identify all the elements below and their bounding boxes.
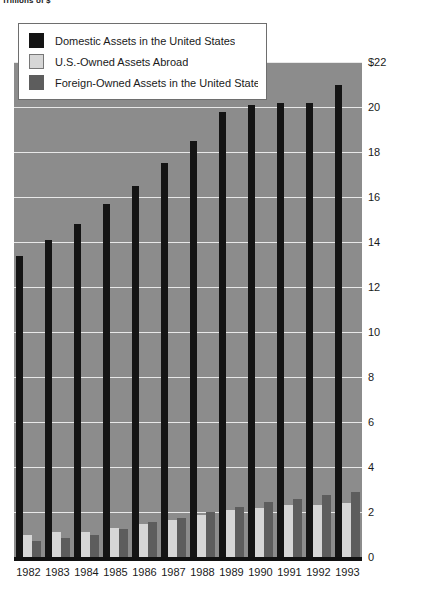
y-axis-tick-label: 20 — [368, 101, 380, 113]
bar — [90, 535, 99, 557]
y-axis-tick-label: $22 — [368, 56, 386, 68]
bar — [248, 105, 255, 557]
bar-group — [304, 62, 333, 557]
bar — [168, 520, 177, 557]
bar — [139, 524, 148, 557]
bar — [52, 532, 61, 557]
bar — [206, 512, 215, 557]
legend-item-foreign-owned-assets: Foreign-Owned Assets in the United State… — [29, 72, 258, 93]
bar — [16, 256, 23, 558]
bar — [351, 492, 360, 557]
y-axis-tick-label: 14 — [368, 236, 380, 248]
bar — [119, 529, 128, 557]
bar — [293, 499, 302, 557]
x-axis-tick-label: 1993 — [333, 566, 362, 578]
bar — [132, 186, 139, 557]
bar — [110, 528, 119, 557]
legend-item-us-owned-assets-abroad: U.S.-Owned Assets Abroad — [29, 51, 258, 72]
bar — [342, 503, 351, 557]
plot-area — [14, 62, 362, 557]
bar — [161, 163, 168, 557]
black-swatch-icon — [29, 33, 44, 48]
x-axis-tick-label: 1984 — [72, 566, 101, 578]
bar — [255, 508, 264, 557]
bar-group — [188, 62, 217, 557]
x-axis-tick-label: 1983 — [43, 566, 72, 578]
bar — [226, 510, 235, 557]
x-axis-tick-label: 1990 — [246, 566, 275, 578]
chart-axis-title: Trillions of $ — [2, 0, 51, 5]
x-axis-tick-label: 1991 — [275, 566, 304, 578]
bar — [148, 522, 157, 557]
bar — [190, 141, 197, 557]
x-axis-tick-label: 1988 — [188, 566, 217, 578]
bar — [219, 112, 226, 558]
chart-container: Trillions of $ 02468101214161820$22 1982… — [0, 0, 424, 589]
bar-group — [14, 62, 43, 557]
y-axis-tick-label: 18 — [368, 146, 380, 158]
bar — [32, 541, 41, 557]
bar — [197, 515, 206, 557]
chart-legend: Domestic Assets in the United States U.S… — [18, 23, 267, 100]
bar — [235, 507, 244, 557]
bar-group — [246, 62, 275, 557]
bar — [81, 532, 90, 557]
y-axis-tick-label: 4 — [368, 461, 374, 473]
bar — [103, 204, 110, 557]
x-axis-labels: 1982198319841985198619871988198919901991… — [14, 566, 362, 578]
bar — [284, 505, 293, 557]
legend-item-domestic-assets: Domestic Assets in the United States — [29, 30, 258, 51]
bar-group — [43, 62, 72, 557]
legend-label: Foreign-Owned Assets in the United State… — [55, 77, 258, 89]
bar-group — [101, 62, 130, 557]
bar — [74, 224, 81, 557]
y-axis-tick-label: 6 — [368, 416, 374, 428]
bar — [45, 240, 52, 557]
bar — [277, 103, 284, 558]
y-axis-tick-label: 16 — [368, 191, 380, 203]
x-axis-baseline — [14, 557, 362, 561]
legend-label: Domestic Assets in the United States — [55, 35, 235, 47]
dark-gray-swatch-icon — [29, 75, 44, 90]
x-axis-tick-label: 1992 — [304, 566, 333, 578]
bar-group — [72, 62, 101, 557]
bar — [322, 495, 331, 557]
bar — [23, 535, 32, 557]
bar — [264, 502, 273, 557]
x-axis-tick-label: 1982 — [14, 566, 43, 578]
bar — [313, 505, 322, 557]
bar — [61, 538, 70, 557]
x-axis-tick-label: 1985 — [101, 566, 130, 578]
y-axis-tick-label: 8 — [368, 371, 374, 383]
bar — [306, 103, 313, 558]
bar-group — [159, 62, 188, 557]
x-axis-tick-label: 1986 — [130, 566, 159, 578]
y-axis-labels: 02468101214161820$22 — [368, 0, 424, 589]
legend-label: U.S.-Owned Assets Abroad — [55, 56, 188, 68]
bar-group — [130, 62, 159, 557]
x-axis-tick-label: 1989 — [217, 566, 246, 578]
y-axis-tick-label: 12 — [368, 281, 380, 293]
y-axis-tick-label: 10 — [368, 326, 380, 338]
bar — [177, 518, 186, 557]
y-axis-tick-label: 0 — [368, 551, 374, 563]
bar-group — [333, 62, 362, 557]
bar-group — [275, 62, 304, 557]
bar-groups — [14, 62, 362, 557]
bar — [335, 85, 342, 558]
y-axis-tick-label: 2 — [368, 506, 374, 518]
light-gray-swatch-icon — [29, 54, 44, 69]
bar-group — [217, 62, 246, 557]
x-axis-tick-label: 1987 — [159, 566, 188, 578]
